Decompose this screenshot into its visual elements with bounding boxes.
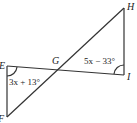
segment-EI — [7, 66, 124, 75]
angle-label-E: 3x + 13° — [9, 77, 41, 87]
point-label-G: G — [52, 55, 59, 66]
point-label-F: F — [0, 113, 5, 123]
angle-label-I: 5x − 33° — [84, 56, 116, 66]
angle-arc-I — [114, 65, 124, 74]
point-label-E: E — [0, 60, 5, 71]
point-label-H: H — [126, 1, 135, 12]
point-label-I: I — [126, 71, 131, 82]
angle-arc-E — [7, 67, 17, 76]
geometry-diagram: H I E F G 3x + 13° 5x − 33° — [0, 0, 137, 123]
